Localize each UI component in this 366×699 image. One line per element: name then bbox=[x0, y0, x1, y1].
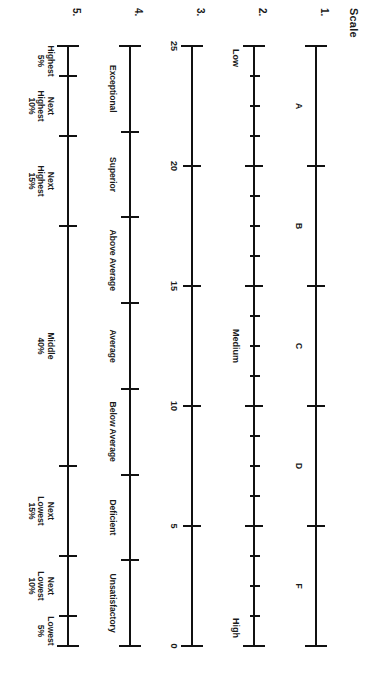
scale-5-axis: Highest 5% Next Highest 10% Next Highest… bbox=[56, 46, 82, 646]
scale-row-5: 5. Highest 5% Next Highest 10% Next High… bbox=[20, 0, 82, 699]
scale-3-tick-label: 5 bbox=[169, 523, 179, 528]
scale-3-axis: 25 20 15 10 5 0 bbox=[180, 46, 206, 646]
tick bbox=[245, 165, 263, 167]
tick bbox=[250, 465, 260, 467]
tick bbox=[307, 285, 325, 287]
tick bbox=[121, 388, 139, 390]
scale-4-segment-label: Deficient bbox=[107, 499, 117, 535]
tick bbox=[250, 75, 260, 77]
scale-3-tick-label: 20 bbox=[169, 161, 179, 171]
scale-4-segment-label: Unsatisfactory bbox=[107, 574, 117, 633]
tick-end-finish bbox=[57, 645, 79, 647]
scale-3-tick-label: 0 bbox=[169, 643, 179, 648]
scale-number-4: 4. bbox=[133, 8, 144, 16]
axis-line bbox=[315, 46, 317, 646]
scale-5-segment-label: Next Highest 10% bbox=[26, 90, 55, 121]
scale-row-2: 2. Low Medium High bbox=[206, 0, 268, 699]
scale-4-segment-label: Above Average bbox=[107, 230, 117, 291]
tick-end-start bbox=[57, 45, 79, 47]
tick-end-start bbox=[119, 45, 141, 47]
figure-stage: Scale 1. A B C D F 2. bbox=[0, 0, 366, 699]
tick bbox=[183, 525, 201, 527]
tick bbox=[250, 315, 260, 317]
tick bbox=[59, 555, 77, 557]
scale-row-4: 4. Exceptional Superior Above Average Av… bbox=[82, 0, 144, 699]
scale-3-tick-label: 10 bbox=[169, 401, 179, 411]
tick bbox=[59, 75, 77, 77]
tick bbox=[307, 525, 325, 527]
tick bbox=[59, 225, 77, 227]
scale-2-axis: Low Medium High bbox=[242, 46, 268, 646]
tick bbox=[250, 195, 260, 197]
scale-1-segment-label: F bbox=[293, 583, 303, 588]
tick bbox=[245, 285, 263, 287]
scale-4-segment-label: Superior bbox=[107, 157, 117, 192]
scale-number-5: 5. bbox=[71, 8, 82, 16]
tick bbox=[250, 225, 260, 227]
tick bbox=[183, 405, 201, 407]
tick bbox=[183, 165, 201, 167]
tick bbox=[245, 525, 263, 527]
tick bbox=[121, 216, 139, 218]
tick bbox=[307, 405, 325, 407]
tick-end-finish bbox=[243, 645, 265, 647]
scale-5-segment-label: Next Lowest 15% bbox=[26, 496, 55, 525]
tick bbox=[307, 165, 325, 167]
scale-4-segment-label: Below Average bbox=[107, 402, 117, 462]
scale-1-segment-label: A bbox=[293, 103, 303, 109]
scale-4-segment-label: Average bbox=[107, 329, 117, 362]
scale-1-segment-label: C bbox=[293, 343, 303, 349]
tick bbox=[121, 131, 139, 133]
tick-end-finish bbox=[119, 645, 141, 647]
scale-5-segment-label: Highest 5% bbox=[36, 45, 55, 76]
scale-2-edge-label-medium: Medium bbox=[231, 329, 241, 363]
tick bbox=[121, 302, 139, 304]
scale-5-segment-label: Next Lowest 10% bbox=[26, 571, 55, 600]
scale-row-3: 3. 25 20 15 10 5 0 bbox=[144, 0, 206, 699]
scale-4-axis: Exceptional Superior Above Average Avera… bbox=[118, 46, 144, 646]
scale-number-2: 2. bbox=[257, 8, 268, 16]
axis-line bbox=[129, 46, 131, 646]
tick bbox=[59, 135, 77, 137]
scale-5-segment-label: Lowest 5% bbox=[36, 616, 55, 645]
scale-2-edge-label-high: High bbox=[231, 618, 241, 638]
tick bbox=[250, 585, 260, 587]
tick-end-finish bbox=[305, 645, 327, 647]
tick-end-start bbox=[305, 45, 327, 47]
scale-4-segment-label: Exceptional bbox=[107, 65, 117, 113]
tick bbox=[59, 465, 77, 467]
tick bbox=[59, 615, 77, 617]
tick bbox=[250, 345, 260, 347]
tick-end-start bbox=[243, 45, 265, 47]
tick bbox=[245, 405, 263, 407]
tick bbox=[250, 255, 260, 257]
tick bbox=[121, 559, 139, 561]
axis-line bbox=[191, 46, 193, 646]
scale-3-tick-label: 25 bbox=[169, 41, 179, 51]
scale-3-tick-label: 15 bbox=[169, 281, 179, 291]
tick bbox=[250, 375, 260, 377]
tick bbox=[250, 555, 260, 557]
scale-5-segment-label: Next Highest 15% bbox=[26, 165, 55, 196]
scale-number-3: 3. bbox=[195, 8, 206, 16]
scale-1-axis: A B C D F bbox=[304, 46, 330, 646]
figure-title: Scale bbox=[348, 8, 360, 38]
tick bbox=[121, 474, 139, 476]
tick-end-start bbox=[181, 45, 203, 47]
tick bbox=[183, 285, 201, 287]
scale-number-1: 1. bbox=[319, 8, 330, 16]
tick bbox=[250, 495, 260, 497]
tick-end-finish bbox=[181, 645, 203, 647]
tick bbox=[250, 435, 260, 437]
scale-1-segment-label: D bbox=[293, 463, 303, 469]
scale-row-1: 1. A B C D F bbox=[268, 0, 330, 699]
tick bbox=[250, 105, 260, 107]
tick bbox=[250, 615, 260, 617]
tick bbox=[250, 135, 260, 137]
scale-1-segment-label: B bbox=[293, 223, 303, 229]
scale-5-segment-label: Middle 40% bbox=[36, 333, 55, 360]
scale-2-edge-label-low: Low bbox=[231, 49, 241, 67]
